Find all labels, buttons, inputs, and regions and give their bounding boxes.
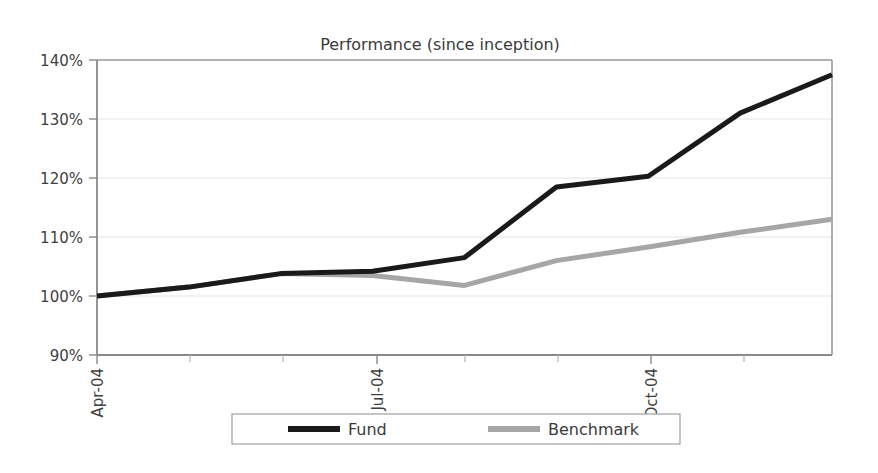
y-axis-label-110: 110%: [40, 229, 83, 247]
x-axis-label-jul-04: Jul-04: [369, 368, 387, 412]
y-axis-label-100: 100%: [40, 288, 83, 306]
chart-container: 140% 130% 120% 110% 100% 90% Apr-04 Jul-…: [0, 0, 878, 473]
chart-legend: Fund Benchmark: [232, 414, 680, 444]
legend-label-fund: Fund: [348, 420, 387, 439]
plot-area-background: [97, 60, 832, 355]
y-axis-label-130: 130%: [40, 111, 83, 129]
x-axis-ticks: [97, 355, 744, 364]
x-axis-label-oct-04: Oct-04: [643, 368, 661, 418]
y-axis-label-120: 120%: [40, 170, 83, 188]
performance-line-chart: 140% 130% 120% 110% 100% 90% Apr-04 Jul-…: [0, 0, 878, 473]
x-axis-label-apr-04: Apr-04: [89, 368, 107, 418]
y-axis-tick-labels: 140% 130% 120% 110% 100% 90%: [40, 52, 83, 365]
legend-label-benchmark: Benchmark: [548, 420, 640, 439]
y-axis-label-90: 90%: [50, 347, 83, 365]
y-axis-ticks: [89, 60, 97, 355]
chart-title: Performance (since inception): [320, 35, 560, 54]
x-axis-tick-labels: Apr-04 Jul-04 Oct-04: [89, 368, 661, 418]
y-axis-label-140: 140%: [40, 52, 83, 70]
